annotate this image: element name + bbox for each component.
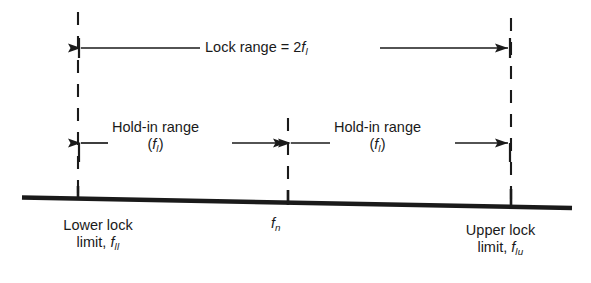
frequency-axis xyxy=(22,186,572,208)
holdin-left-line2: (fl) xyxy=(112,136,199,154)
upper-lock-limit-label: Upper lock limit, flu xyxy=(438,222,563,257)
upper-limit-prefix: limit, xyxy=(477,239,511,255)
lower-limit-line1: Lower lock xyxy=(38,217,158,234)
center-frequency-label: fn xyxy=(271,215,281,233)
upper-limit-line1: Upper lock xyxy=(438,222,563,239)
holdin-right-line1: Hold-in range xyxy=(334,119,421,136)
holdin-range-left-label: Hold-in range (fl) xyxy=(112,119,199,154)
lock-range-subscript: l xyxy=(305,46,308,57)
lower-limit-subscript: ll xyxy=(114,241,119,252)
lower-limit-line2: limit, fll xyxy=(38,234,158,252)
holdin-right-paren-close: ) xyxy=(381,136,386,152)
lock-range-label: Lock range = 2fl xyxy=(205,39,308,57)
diagram-root: Lock range = 2fl Hold-in range (fl) Hold… xyxy=(0,0,591,283)
frequency-baseline xyxy=(22,198,572,209)
holdin-left-paren-close: ) xyxy=(159,136,164,152)
center-frequency-subscript: n xyxy=(275,222,281,233)
lower-lock-limit-label: Lower lock limit, fll xyxy=(38,217,158,252)
lower-limit-prefix: limit, xyxy=(77,234,111,250)
holdin-left-line1: Hold-in range xyxy=(112,119,199,136)
upper-limit-line2: limit, flu xyxy=(438,239,563,257)
holdin-range-right-label: Hold-in range (fl) xyxy=(334,119,421,154)
holdin-right-line2: (fl) xyxy=(334,136,421,154)
lock-range-text: Lock range = 2 xyxy=(205,39,301,55)
upper-limit-subscript: lu xyxy=(515,246,523,257)
